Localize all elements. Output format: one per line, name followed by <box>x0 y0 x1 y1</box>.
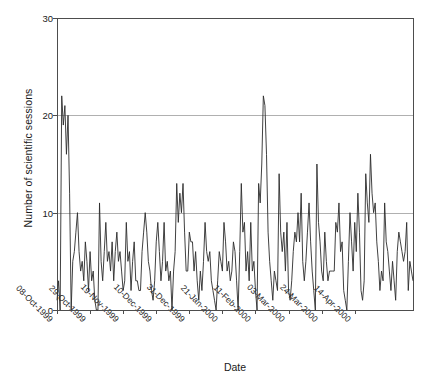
gridlines <box>57 19 413 214</box>
data-line-sessions <box>57 96 413 310</box>
chart-figure: Number of scientific sessions Date 01020… <box>0 0 432 384</box>
plot-area <box>0 0 432 384</box>
